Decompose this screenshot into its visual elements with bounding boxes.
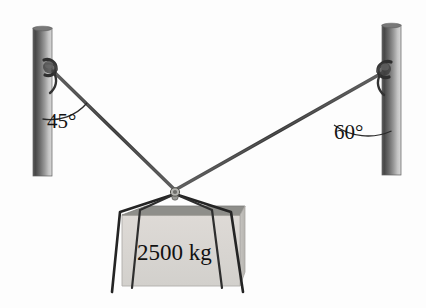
angle-right-label: 60° xyxy=(334,120,363,145)
crate-mass-label: 2500 kg xyxy=(137,240,212,266)
cable-junction-ring xyxy=(170,188,179,200)
angle-left-label: 45° xyxy=(47,109,76,134)
diagram-canvas xyxy=(0,0,426,308)
physics-diagram: 45° 60° 2500 kg xyxy=(0,0,426,308)
right-vertical-post xyxy=(382,23,401,175)
left-vertical-post xyxy=(33,26,52,176)
